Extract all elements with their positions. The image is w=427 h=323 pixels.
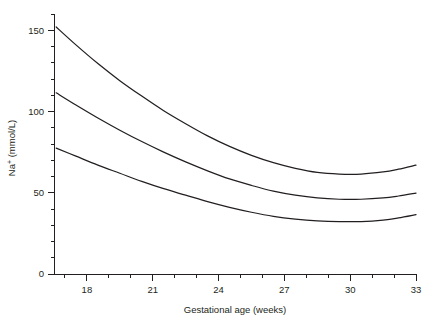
curve-median bbox=[56, 93, 416, 200]
y-axis-title-rest: (mmol/L) bbox=[6, 120, 17, 160]
y-tick-label: 50 bbox=[33, 187, 44, 198]
y-tick-label: 150 bbox=[28, 25, 44, 36]
x-tick-label: 27 bbox=[279, 284, 290, 295]
y-axis-title-base: Na bbox=[6, 163, 17, 176]
x-tick-label: 24 bbox=[213, 284, 224, 295]
x-axis-tick-labels: 182124273033 bbox=[82, 284, 422, 295]
y-tick-label: 0 bbox=[39, 268, 44, 279]
x-tick-label: 30 bbox=[345, 284, 356, 295]
x-axis-title: Gestational age (weeks) bbox=[184, 304, 286, 315]
y-axis-title: Na+ (mmol/L) bbox=[6, 120, 17, 176]
chart-axes bbox=[54, 14, 416, 274]
y-axis-ticks bbox=[48, 14, 54, 274]
percentile-curves bbox=[56, 27, 416, 222]
y-axis-tick-labels: 050100150 bbox=[28, 25, 44, 280]
x-tick-label: 33 bbox=[411, 284, 422, 295]
x-axis-ticks bbox=[65, 274, 416, 281]
y-tick-label: 100 bbox=[28, 106, 44, 117]
curve-lower bbox=[56, 148, 416, 222]
na-gestational-age-line-chart: 050100150 182124273033 Gestational age (… bbox=[0, 0, 427, 323]
x-tick-label: 18 bbox=[82, 284, 93, 295]
curve-upper bbox=[56, 27, 416, 174]
chart-container: 050100150 182124273033 Gestational age (… bbox=[0, 0, 427, 323]
x-tick-label: 21 bbox=[147, 284, 158, 295]
